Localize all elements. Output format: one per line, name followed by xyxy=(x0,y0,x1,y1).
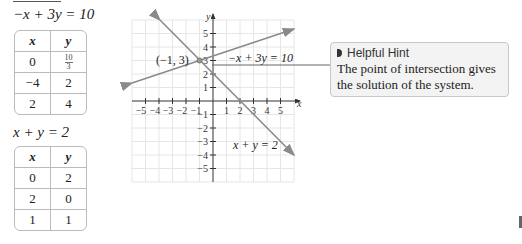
hint-bullet-icon xyxy=(337,49,342,57)
helpful-hint-box: Helpful Hint The point of intersection g… xyxy=(330,42,509,97)
svg-text:2: 2 xyxy=(203,69,208,80)
svg-text:−3: −3 xyxy=(163,105,174,116)
svg-text:1: 1 xyxy=(224,105,229,116)
hint-title: Helpful Hint xyxy=(337,46,409,60)
x-axis-label: x xyxy=(296,98,302,109)
hint-body: The point of intersection gives the solu… xyxy=(337,61,496,93)
hint-title-text: Helpful Hint xyxy=(347,46,409,60)
svg-text:−5: −5 xyxy=(197,163,208,174)
svg-text:−4: −4 xyxy=(197,150,208,161)
coordinate-graph: −5 −4 −3 −2 −1 1 2 3 4 5 5 4 3 2 1 −1 −2… xyxy=(0,0,522,244)
svg-text:2: 2 xyxy=(238,105,243,116)
svg-text:−2: −2 xyxy=(177,105,188,116)
svg-text:−3: −3 xyxy=(197,136,208,147)
line-1-label: −x + 3y = 10 xyxy=(228,51,293,65)
svg-text:4: 4 xyxy=(265,105,270,116)
intersection-label: (−1, 3) xyxy=(156,53,189,67)
svg-text:−5: −5 xyxy=(136,105,147,116)
svg-text:1: 1 xyxy=(203,82,208,93)
intersection-point xyxy=(197,58,202,63)
hint-body-line: the solution of the system. xyxy=(337,77,496,93)
svg-text:5: 5 xyxy=(278,105,283,116)
y-axis-label: y xyxy=(205,11,211,22)
svg-text:−1: −1 xyxy=(197,109,208,120)
svg-text:−2: −2 xyxy=(197,123,208,134)
svg-text:4: 4 xyxy=(203,42,208,53)
line-2-label: x + y = 2 xyxy=(232,138,278,152)
hint-body-line: The point of intersection gives xyxy=(337,61,496,77)
svg-text:−4: −4 xyxy=(150,105,161,116)
svg-text:5: 5 xyxy=(203,28,208,39)
